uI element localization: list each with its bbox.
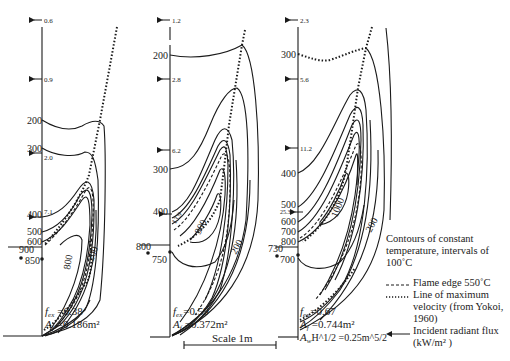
legend-title: Contours of constant temperature, interv…	[386, 233, 510, 269]
temp-label: 400	[27, 209, 42, 220]
temp-label: 400	[281, 168, 296, 179]
outer-line	[386, 28, 391, 220]
measurement-point	[275, 254, 279, 258]
scale-bar-label: Scale 1m	[212, 332, 253, 344]
params-b: fex=0.59 Af=0.372m²	[172, 305, 228, 332]
params-a: fex=0.38 Af=0.186m²	[44, 305, 100, 332]
panel-a	[3, 27, 117, 336]
contour-300	[300, 48, 384, 330]
temp-label: 400	[153, 206, 168, 217]
legend-label: Flame edge 550˚C	[413, 277, 491, 289]
flux-label: 2.8	[172, 76, 181, 84]
outside-temp-label: 730	[268, 243, 283, 254]
legend: Contours of constant temperature, interv…	[386, 233, 510, 349]
contour-label: 800	[61, 254, 74, 271]
measurement-point	[296, 253, 300, 257]
contour-label: 200	[85, 245, 100, 263]
axis-temps-b: 200 300 400 750 800	[136, 50, 168, 265]
legend-label: Line of maximum velocity (from Yokoi, 19…	[413, 289, 510, 325]
flux-label: 5.6	[300, 76, 309, 84]
temp-label: 850	[25, 255, 40, 266]
flux-label: 2.3	[300, 17, 309, 25]
legend-label: Incident radiant flux (kW/m² )	[413, 325, 510, 349]
measurement-point	[146, 251, 150, 255]
temp-label: 300	[281, 49, 296, 60]
arrow-left-icon	[386, 331, 410, 337]
flux-label: 6.2	[172, 147, 181, 155]
flux-arrows-b: 1.2 2.8 6.2 13.9	[162, 17, 184, 226]
param-af: Af=0.372m²	[172, 318, 228, 332]
panel-b	[150, 27, 258, 337]
temp-label: 300	[27, 143, 42, 154]
flux-label: 0.9	[44, 76, 53, 84]
param-fex: fex=0.59	[173, 305, 209, 319]
params-c: fex=0.67 Af=0.744m² AwH^1/2 =0.25m^5/2	[299, 305, 387, 345]
param-fex: fex=0.38	[45, 305, 83, 319]
measurement-point	[40, 257, 44, 261]
flux-label: 2.0	[44, 154, 53, 162]
outside-temp-label: 800	[136, 241, 151, 252]
legend-item-max-velocity: Line of maximum velocity (from Yokoi, 19…	[386, 289, 510, 325]
outside-temp-label: 900	[19, 244, 34, 255]
dashed-line-icon	[386, 283, 410, 287]
temp-label: 500	[281, 199, 296, 210]
flux-label: 11.2	[300, 145, 312, 153]
param-af: Af=0.744m²	[299, 318, 355, 332]
legend-item-radiant-flux: Incident radiant flux (kW/m² )	[386, 325, 510, 349]
flux-label: 0.6	[44, 17, 53, 25]
axis-temps-c: 300 400 500 600 700 800 700 730	[268, 49, 296, 265]
legend-item-flame-edge: Flame edge 550˚C	[386, 277, 510, 289]
flux-arrows-c: 2.3 5.6 11.2 25.3	[280, 17, 312, 215]
temp-label: 200	[153, 50, 168, 61]
flux-label: 7.1	[44, 208, 53, 216]
axis-temps-a: 200 300 400 500 600 850 900	[19, 115, 42, 266]
temp-label: 800	[281, 236, 296, 247]
contour-300-dotted	[298, 48, 366, 61]
temp-label: 750	[152, 254, 167, 265]
flux-label: 1.2	[172, 17, 181, 25]
dotted-line-icon	[386, 295, 410, 299]
contour-800	[180, 169, 225, 322]
measurement-point	[19, 256, 23, 260]
panel-c	[278, 27, 391, 340]
temp-label: 700	[280, 254, 295, 265]
measurement-point	[168, 250, 172, 254]
temp-label: 300	[153, 164, 168, 175]
param-af: Af=0.186m²	[44, 318, 100, 332]
max-velocity-line	[178, 30, 245, 246]
param-fex: fex=0.67	[300, 305, 336, 319]
param-awh: AwH^1/2 =0.25m^5/2	[299, 331, 387, 345]
temp-label: 200	[27, 115, 42, 126]
